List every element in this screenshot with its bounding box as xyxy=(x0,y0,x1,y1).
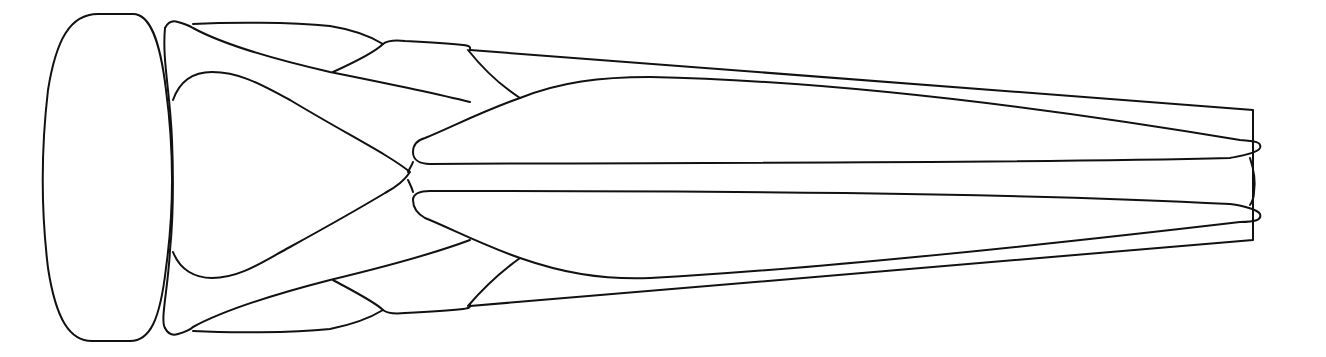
forewing-upper xyxy=(413,77,1260,164)
scutellum-lower-diag xyxy=(468,258,520,306)
outline-diagram: Dorsal outline drawing xyxy=(0,0,1326,357)
pronotum-outline xyxy=(165,21,470,102)
outer-wing-box xyxy=(470,50,1253,306)
pronotum-outline-lower xyxy=(165,240,470,335)
forewing-lower xyxy=(413,191,1260,278)
head-outline xyxy=(43,14,172,341)
upper-lateral-plate-2 xyxy=(383,40,470,50)
scutum-outline xyxy=(173,72,410,278)
lower-lateral-plate-2 xyxy=(383,304,470,314)
apex-junction xyxy=(408,162,413,192)
scutellum-upper-diag xyxy=(468,50,520,98)
upper-lateral-plate xyxy=(193,23,383,72)
lower-lateral-plate xyxy=(193,280,383,332)
